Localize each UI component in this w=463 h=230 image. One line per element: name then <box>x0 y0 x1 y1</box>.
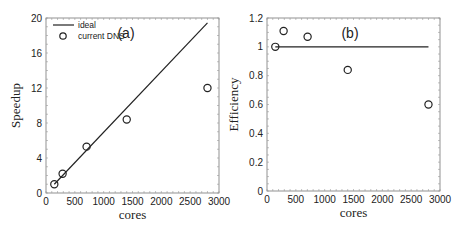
y-tick-label: 1.2 <box>249 13 263 24</box>
plot-frame <box>267 18 440 191</box>
y-axis-label: Speedup <box>8 83 23 128</box>
x-tick-label: 2000 <box>371 194 394 205</box>
y-tick-label: 20 <box>31 13 43 24</box>
x-tick-label: 2500 <box>179 196 202 207</box>
panel-label: (b) <box>341 25 358 41</box>
data-point-circle <box>304 33 311 40</box>
data-point-circle <box>344 66 351 73</box>
y-tick-label: 0.4 <box>249 128 263 139</box>
x-tick-label: 1000 <box>93 196 116 207</box>
x-tick-label: 500 <box>66 196 83 207</box>
y-tick-label: 1 <box>257 41 263 52</box>
dns-data-points <box>51 84 211 187</box>
x-axis-label: cores <box>340 205 367 220</box>
y-tick-label: 12 <box>31 83 43 94</box>
speedup-chart: 050010001500200025003000048121620coresSp… <box>8 13 231 223</box>
figure: 050010001500200025003000048121620coresSp… <box>0 0 463 230</box>
minor-ticks <box>46 18 219 193</box>
x-tick-label: 1500 <box>121 196 144 207</box>
data-point-circle <box>204 84 211 91</box>
y-axis-label: Efficiency <box>226 77 241 131</box>
data-point-circle <box>83 143 90 150</box>
legend: idealcurrent DNS <box>53 20 125 41</box>
y-tick-label: 0.2 <box>249 157 263 168</box>
y-tick-label: 0 <box>257 186 263 197</box>
x-tick-label: 3000 <box>429 194 452 205</box>
data-point-circle <box>123 116 130 123</box>
y-tick-label: 0.8 <box>249 70 263 81</box>
x-tick-label: 1000 <box>314 194 337 205</box>
x-tick-label: 500 <box>287 194 304 205</box>
y-tick-label: 8 <box>36 118 42 129</box>
plot-frame <box>46 18 219 193</box>
y-tick-label: 0.6 <box>249 99 263 110</box>
x-tick-label: 3000 <box>208 196 231 207</box>
x-tick-label: 0 <box>43 196 49 207</box>
legend-ideal-label: ideal <box>78 20 96 30</box>
x-tick-label: 0 <box>264 194 270 205</box>
data-point-circle <box>425 101 432 108</box>
efficiency-chart: 05001000150020002500300000.20.40.60.811.… <box>226 13 452 221</box>
y-tick-label: 16 <box>31 48 43 59</box>
x-tick-label: 1500 <box>342 194 365 205</box>
y-tick-label: 0 <box>36 188 42 199</box>
x-axis-label: cores <box>119 207 146 222</box>
minor-ticks <box>267 18 440 191</box>
y-tick-label: 4 <box>36 153 42 164</box>
data-point-circle <box>280 27 287 34</box>
ideal-line <box>54 23 207 184</box>
x-tick-label: 2000 <box>150 196 173 207</box>
legend-dns-label: current DNS <box>78 31 125 41</box>
x-tick-label: 2500 <box>400 194 423 205</box>
legend-circle-icon <box>60 33 66 39</box>
